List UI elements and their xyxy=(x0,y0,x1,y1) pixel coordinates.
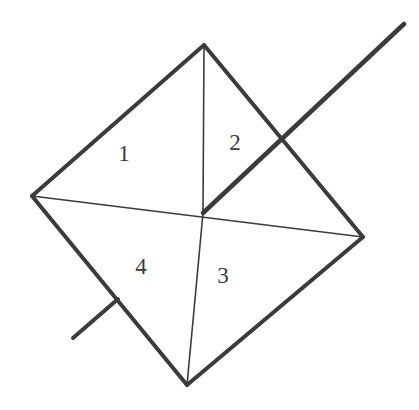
geometry-figure-svg xyxy=(0,0,419,410)
tick-mark-lower-left-edge xyxy=(73,299,118,338)
ray-center-upper-right xyxy=(203,24,404,213)
edge-bottom-left xyxy=(32,196,187,385)
segment-top-center xyxy=(203,45,204,213)
region-label-1: 1 xyxy=(118,142,130,165)
edge-bottom-right xyxy=(187,237,363,385)
segment-center-bottom xyxy=(187,213,203,385)
edge-top-left xyxy=(32,45,204,196)
region-label-3: 3 xyxy=(217,264,229,287)
geometry-figure-canvas: 1 2 3 4 xyxy=(0,0,419,410)
diagonal-horizontal xyxy=(32,196,363,237)
edge-top-right xyxy=(204,45,363,237)
region-label-2: 2 xyxy=(229,131,241,154)
quadrilateral-outline xyxy=(32,45,363,385)
region-label-4: 4 xyxy=(135,255,147,278)
internal-dividing-lines xyxy=(32,45,363,385)
